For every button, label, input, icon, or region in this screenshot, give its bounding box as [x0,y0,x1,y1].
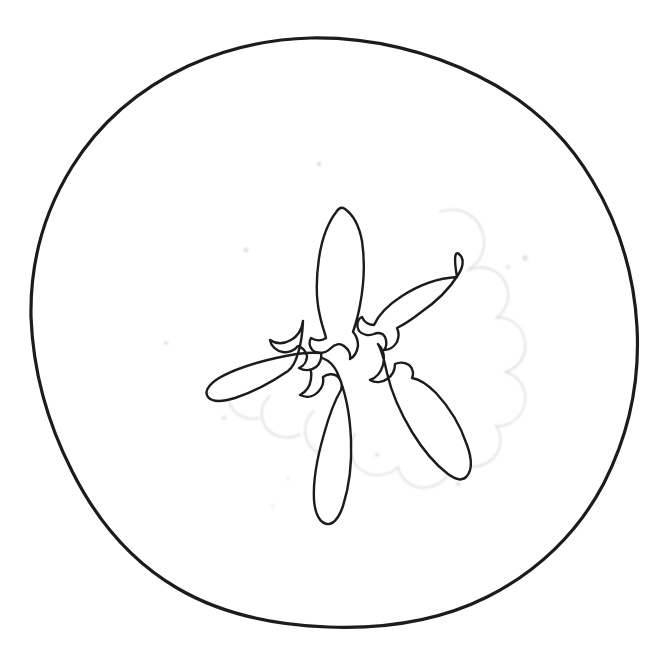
speckle [375,453,379,457]
speckle [522,255,527,260]
sand-dollar-figure [0,0,663,659]
speckle [272,505,275,508]
speckle [286,476,289,479]
speckle [244,248,248,252]
speckle [164,341,168,345]
speckle [506,265,510,269]
speckle [222,416,226,420]
speckle [456,482,460,486]
speckle [317,162,321,166]
illustration-canvas: Sand Dollar Line Drawing Hand-drawn outl… [0,0,663,659]
